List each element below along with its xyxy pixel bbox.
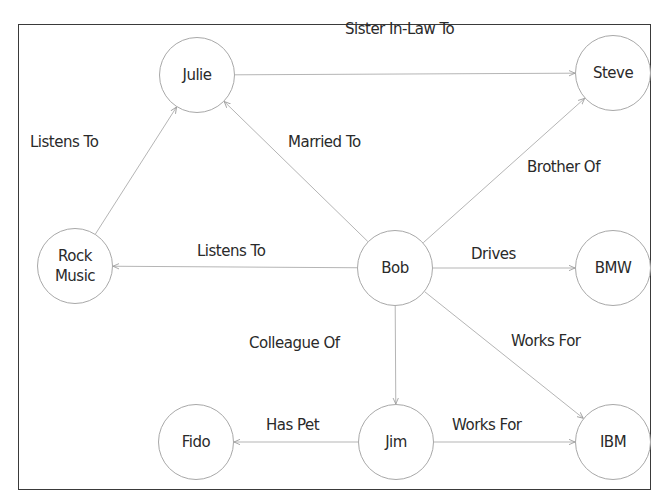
edge-bob-jim (395, 306, 396, 404)
edge-label-works-for-jim: Works For (452, 416, 522, 434)
node-jim[interactable]: Jim (358, 404, 434, 480)
edge-label-brother-of: Brother Of (527, 158, 600, 176)
node-julie[interactable]: Julie (159, 37, 235, 113)
edge-bob-rock_music (113, 266, 357, 268)
edge-bob-ibm (425, 292, 584, 419)
node-bob[interactable]: Bob (357, 230, 433, 306)
edge-label-listens-to-julie: Listens To (30, 133, 98, 151)
diagram-canvas: Julie Steve Rock Music Bob BMW Fido Jim … (0, 0, 669, 503)
edge-label-drives: Drives (471, 245, 516, 263)
edge-label-married-to: Married To (288, 133, 361, 151)
edge-bob-julie (224, 102, 368, 242)
edge-label-has-pet: Has Pet (266, 416, 319, 434)
edge-label-sister-in-law-to: Sister In-Law To (345, 20, 454, 38)
node-fido[interactable]: Fido (158, 404, 234, 480)
edge-label-listens-to-rock: Listens To (197, 242, 265, 260)
node-steve[interactable]: Steve (575, 35, 651, 111)
edge-rock_music-julie (95, 107, 176, 234)
node-rock-music[interactable]: Rock Music (37, 228, 113, 304)
node-bmw[interactable]: BMW (575, 230, 651, 306)
edge-label-works-for-bob: Works For (511, 332, 581, 350)
node-ibm[interactable]: IBM (575, 404, 651, 480)
edge-label-colleague-of: Colleague Of (249, 334, 340, 352)
edge-julie-steve (235, 73, 575, 75)
